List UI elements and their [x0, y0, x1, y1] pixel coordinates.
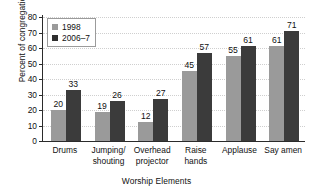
y-tick-mark	[39, 126, 43, 127]
bar-value-label: 33	[69, 79, 79, 89]
bar: 12	[138, 122, 153, 141]
legend-swatch-1998-icon	[52, 24, 58, 30]
y-tick-mark	[39, 48, 43, 49]
x-tick-label: Overheadprojector	[127, 145, 177, 166]
gridline	[43, 79, 305, 80]
gridline	[43, 126, 305, 127]
gridline	[43, 95, 305, 96]
bar-group: 4557	[182, 17, 212, 141]
bar-value-label: 19	[97, 101, 107, 111]
x-tick-label-line: Jumping/	[91, 145, 125, 155]
x-tick-label: Drums	[40, 145, 90, 156]
bar-value-label: 61	[272, 35, 282, 45]
bar: 71	[284, 31, 299, 141]
x-axis-title: Worship Elements	[0, 176, 313, 186]
x-tick-label-line: projector	[136, 156, 169, 166]
x-tick-label-line: Raise	[185, 145, 206, 155]
bar-group: 1227	[138, 17, 168, 141]
y-tick-mark	[39, 33, 43, 34]
bar-group: 5561	[226, 17, 256, 141]
bar: 57	[197, 53, 212, 141]
x-tick-label: Jumping/shouting	[84, 145, 134, 166]
x-tick-label: Say amen	[258, 145, 308, 156]
legend-swatch-2006-7-icon	[52, 35, 58, 41]
y-tick-mark	[39, 95, 43, 96]
bar: 20	[51, 110, 66, 141]
bar: 26	[110, 101, 125, 141]
bar: 19	[95, 112, 110, 141]
bar-value-label: 27	[156, 88, 166, 98]
x-tick-label-line: Drums	[52, 145, 77, 155]
y-tick-mark	[39, 17, 43, 18]
y-tick-label: 80	[28, 12, 37, 22]
legend-label-2006-7: 2006–7	[62, 33, 90, 43]
y-tick-label: 40	[28, 74, 37, 84]
x-tick-label: Applause	[215, 145, 265, 156]
bar: 45	[182, 71, 197, 141]
x-tick-label-line: Say amen	[264, 145, 302, 155]
y-tick-mark	[39, 79, 43, 80]
y-tick-label: 30	[28, 90, 37, 100]
y-tick-mark	[39, 64, 43, 65]
y-axis-title: Percent of congregations	[17, 0, 27, 105]
y-tick-mark	[39, 110, 43, 111]
chart-legend: 1998 2006–7	[47, 18, 96, 47]
y-axis-line	[42, 15, 43, 141]
x-axis-tick-labels: DrumsJumping/shoutingOverheadprojectorRa…	[43, 145, 305, 171]
y-tick-label: 70	[28, 28, 37, 38]
gridline	[43, 64, 305, 65]
x-tick-label-line: hands	[184, 156, 207, 166]
legend-label-1998: 1998	[62, 22, 81, 32]
gridline	[43, 48, 305, 49]
bar-value-label: 20	[54, 99, 64, 109]
bar-value-label: 55	[228, 45, 238, 55]
y-tick-label: 20	[28, 105, 37, 115]
bar: 55	[226, 56, 241, 141]
x-tick-label-line: Overhead	[134, 145, 171, 155]
bar: 61	[269, 46, 284, 141]
bar: 27	[153, 99, 168, 141]
bar-chart: Percent of congregations 010203040506070…	[0, 0, 313, 196]
y-tick-label: 10	[28, 121, 37, 131]
y-tick-mark	[39, 141, 43, 142]
x-axis-line	[42, 141, 305, 142]
bar-value-label: 71	[287, 20, 297, 30]
x-tick-label: Raisehands	[171, 145, 221, 166]
bar-value-label: 61	[243, 35, 253, 45]
legend-item-2006-7: 2006–7	[52, 32, 90, 43]
legend-item-1998: 1998	[52, 21, 90, 32]
bar-value-label: 45	[185, 60, 195, 70]
bar-value-label: 57	[200, 42, 210, 52]
bar: 33	[66, 90, 81, 141]
bar-group: 1926	[95, 17, 125, 141]
y-tick-label: 60	[28, 43, 37, 53]
bar: 61	[241, 46, 256, 141]
x-tick-label-line: Applause	[222, 145, 257, 155]
bar-value-label: 26	[112, 90, 122, 100]
x-tick-label-line: shouting	[93, 156, 125, 166]
bar-group: 6171	[269, 17, 299, 141]
bar-value-label: 12	[141, 111, 151, 121]
y-tick-label: 50	[28, 59, 37, 69]
y-tick-label: 0	[32, 136, 37, 146]
gridline	[43, 110, 305, 111]
